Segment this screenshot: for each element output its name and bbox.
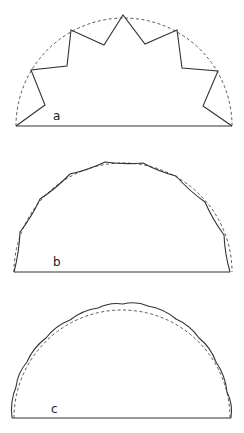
star-polyline-a bbox=[16, 15, 232, 126]
figure-a: a bbox=[16, 15, 232, 126]
concave-polygon-b bbox=[14, 162, 230, 272]
dashed-semicircle-a bbox=[16, 18, 232, 126]
dashed-semicircle-b bbox=[14, 163, 232, 272]
diagram-canvas: a b c bbox=[0, 0, 244, 433]
figure-b: b bbox=[14, 162, 232, 272]
figure-label-c: c bbox=[51, 402, 58, 416]
figure-label-a: a bbox=[53, 109, 60, 123]
dashed-semicircle-c bbox=[14, 310, 230, 418]
figure-c: c bbox=[11, 303, 231, 418]
scalloped-curve-c bbox=[11, 303, 231, 418]
figure-label-b: b bbox=[53, 255, 61, 269]
